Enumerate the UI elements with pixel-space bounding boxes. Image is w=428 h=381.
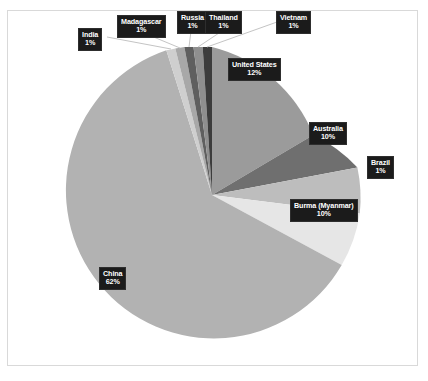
pie-label-burma-myanmar-value: 10% [294,210,354,218]
pie-label-china-value: 62% [103,278,122,286]
pie-label-australia[interactable]: Australia 10% [309,122,347,145]
pie-label-russia-value: 1% [181,22,204,30]
pie-label-india-value: 1% [82,39,98,47]
pie-chart-svg [0,0,428,381]
pie-chart: India 1% Madagascar 1% Russia 1% Thailan… [0,0,428,381]
pie-label-brazil-value: 1% [371,167,390,175]
pie-label-thailand-value: 1% [209,22,238,30]
pie-label-china[interactable]: China 62% [99,267,126,290]
pie-label-russia[interactable]: Russia 1% [177,11,208,34]
pie-label-united-states[interactable]: United States 12% [228,58,281,81]
pie-label-madagascar-value: 1% [121,26,162,34]
pie-label-australia-value: 10% [313,133,343,141]
pie-label-thailand[interactable]: Thailand 1% [205,11,242,34]
pie-label-india[interactable]: India 1% [78,28,102,51]
pie-label-vietnam[interactable]: Vietnam 1% [276,11,311,34]
pie-label-brazil[interactable]: Brazil 1% [367,156,394,179]
pie-label-united-states-value: 12% [232,69,277,77]
leader-line-india [107,37,171,49]
pie-label-vietnam-value: 1% [280,22,307,30]
pie-label-burma-myanmar[interactable]: Burma (Myanmar) 10% [290,199,358,222]
pie-label-madagascar[interactable]: Madagascar 1% [117,15,166,38]
pie-slices [66,47,361,339]
